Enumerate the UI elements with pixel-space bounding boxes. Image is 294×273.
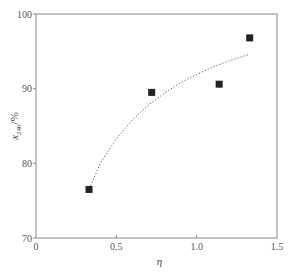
y-tick-label: 100	[17, 9, 32, 20]
x-tick-label: 1.0	[190, 241, 203, 252]
fit-line	[91, 54, 250, 185]
y-tick-label: 70	[22, 233, 32, 244]
plot-border	[36, 14, 277, 238]
axis-labels: ηx240/%	[8, 112, 162, 267]
data-point	[148, 89, 155, 96]
x-axis-label: η	[157, 255, 162, 267]
axis-ticks: 70809010000.51.01.5	[17, 9, 283, 253]
y-axis-label: x240/%	[8, 112, 23, 141]
scatter-chart: 70809010000.51.01.5 ηx240/%	[0, 0, 294, 273]
data-point	[86, 186, 93, 193]
x-tick-label: 0.5	[110, 241, 123, 252]
plot-frame	[36, 14, 277, 238]
data-point	[246, 34, 253, 41]
data-points	[86, 34, 254, 193]
fit-curve	[91, 54, 250, 185]
y-tick-label: 90	[22, 83, 32, 94]
x-tick-label: 0	[34, 241, 39, 252]
data-point	[216, 81, 223, 88]
x-tick-label: 1.5	[271, 241, 284, 252]
y-tick-label: 80	[22, 158, 32, 169]
